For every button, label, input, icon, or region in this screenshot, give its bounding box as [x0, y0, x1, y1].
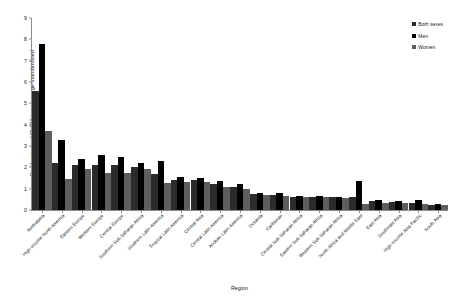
- bar-women: [124, 173, 131, 210]
- y-tick-mark: [29, 39, 32, 40]
- y-tick-label: 6: [0, 79, 27, 85]
- legend-label: Both sexes: [418, 21, 443, 27]
- bar-women: [362, 204, 369, 210]
- x-label-slot: Western Sub-Saharan Africa: [330, 213, 350, 283]
- bar-women: [303, 197, 310, 210]
- bar-women: [184, 182, 191, 210]
- y-tick-mark: [29, 210, 32, 211]
- bar-group: [290, 18, 310, 210]
- y-tick-label: 2: [0, 164, 27, 170]
- bar-women: [243, 189, 250, 210]
- y-tick-label: 9: [0, 15, 27, 21]
- bar-group: [210, 18, 230, 210]
- x-label-slot: Southern Sub-Saharan Africa: [131, 213, 151, 283]
- y-tick-mark: [29, 18, 32, 19]
- bar-women: [263, 195, 270, 210]
- y-tick-mark: [29, 188, 32, 189]
- bar-women: [164, 183, 171, 210]
- x-label-slot: Andean Latin America: [231, 213, 251, 283]
- y-tick-mark: [29, 167, 32, 168]
- bar-group: [151, 18, 171, 210]
- y-tick-mark: [29, 82, 32, 83]
- y-tick-label: 1: [0, 186, 27, 192]
- legend-item[interactable]: Men: [412, 33, 443, 39]
- y-tick-mark: [29, 124, 32, 125]
- bar-women: [382, 203, 389, 210]
- bar-group: [369, 18, 389, 210]
- legend-swatch-icon: [412, 45, 416, 49]
- y-tick-label: 7: [0, 58, 27, 64]
- bar-group: [230, 18, 250, 210]
- bar-women: [45, 131, 52, 210]
- bar-group: [191, 18, 211, 210]
- bar-women: [323, 197, 330, 210]
- bar-chart: Death rate per 100 000 persons, age-stan…: [0, 0, 459, 300]
- bar-women: [144, 169, 151, 210]
- y-tick-mark: [29, 60, 32, 61]
- bar-women: [65, 179, 72, 210]
- bar-women: [283, 196, 290, 210]
- bar-group: [250, 18, 270, 210]
- bar-series-container: [32, 18, 448, 210]
- y-tick-mark: [29, 103, 32, 104]
- x-label-slot: High-income North America: [52, 213, 72, 283]
- y-tick-label: 8: [0, 36, 27, 42]
- bar-group: [329, 18, 349, 210]
- bar-women: [441, 205, 448, 210]
- legend-label: Men: [418, 33, 428, 39]
- bar-women: [105, 173, 112, 210]
- legend-swatch-icon: [412, 34, 416, 38]
- y-tick-label: 0: [0, 207, 27, 213]
- x-label-slot: Central Asia: [191, 213, 211, 283]
- x-label-slot: South Asia: [429, 213, 449, 283]
- legend-label: Women: [418, 44, 435, 50]
- x-label-slot: Australasia: [32, 213, 52, 283]
- x-axis-label: Oceania: [248, 213, 264, 229]
- bar-group: [111, 18, 131, 210]
- chart-legend: Both sexesMenWomen: [412, 21, 443, 50]
- x-axis-title: Region: [31, 285, 448, 291]
- bar-group: [32, 18, 52, 210]
- legend-item[interactable]: Women: [412, 44, 443, 50]
- bar-group: [131, 18, 151, 210]
- x-label-slot: Tropical Latin America: [171, 213, 191, 283]
- bar-women: [422, 204, 429, 210]
- legend-item[interactable]: Both sexes: [412, 21, 443, 27]
- bar-group: [52, 18, 72, 210]
- bar-group: [171, 18, 191, 210]
- bar-group: [349, 18, 369, 210]
- x-label-slot: High-income Asia Pacific: [409, 213, 429, 283]
- y-tick-mark: [29, 146, 32, 147]
- x-label-slot: Southern Latin America: [151, 213, 171, 283]
- bar-women: [204, 182, 211, 210]
- bar-group: [270, 18, 290, 210]
- bar-group: [389, 18, 409, 210]
- x-axis-label: Australasia: [25, 213, 45, 233]
- bar-women: [402, 203, 409, 210]
- y-tick-label: 4: [0, 122, 27, 128]
- y-tick-label: 5: [0, 100, 27, 106]
- bar-women: [342, 198, 349, 210]
- y-tick-label: 3: [0, 143, 27, 149]
- x-axis-tick-labels: AustralasiaHigh-income North AmericaEast…: [32, 213, 448, 283]
- bar-group: [72, 18, 92, 210]
- bar-group: [91, 18, 111, 210]
- bar-group: [309, 18, 329, 210]
- legend-swatch-icon: [412, 22, 416, 26]
- bar-women: [85, 169, 92, 210]
- bar-women: [223, 187, 230, 210]
- x-label-slot: Southeast Asia: [389, 213, 409, 283]
